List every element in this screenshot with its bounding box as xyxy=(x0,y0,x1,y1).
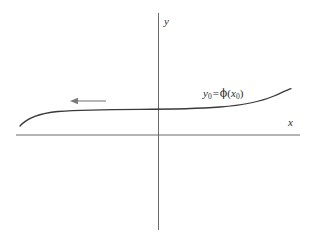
flow-arrow-head-icon xyxy=(70,98,78,104)
curve-label-equals: = xyxy=(212,87,220,99)
y-axis-label: y xyxy=(164,16,169,27)
curve-label-close-paren: ) xyxy=(240,87,244,99)
x-axis-label: x xyxy=(288,117,293,128)
solution-curve xyxy=(20,89,291,126)
figure-canvas: y x y0=ϕ(x0) xyxy=(0,0,314,249)
curve-equation-label: y0=ϕ(x0) xyxy=(203,88,243,101)
plot-svg xyxy=(0,0,314,249)
